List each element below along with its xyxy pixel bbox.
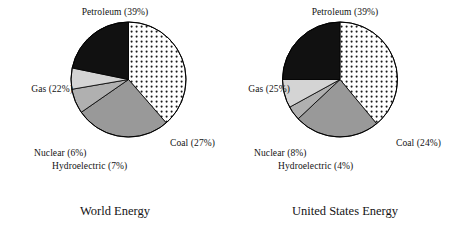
slice-label-nuclear: Nuclear (6%) [34,148,87,159]
slice-label-hydroelectric: Hydroelectric (4%) [278,161,353,172]
slice-label-coal: Coal (27%) [170,138,215,149]
chart-title-united-states-energy: United States Energy [230,204,460,219]
slice-label-petroleum: Petroleum (39%) [82,7,149,18]
chart-panel-united-states-energy: Petroleum (39%) Gas (25%) Coal (24%) Nuc… [230,0,460,244]
slice-label-gas: Gas (22%) [31,84,73,95]
slice-label-petroleum: Petroleum (39%) [312,7,379,18]
chart-title-world-energy: World Energy [0,204,230,219]
slice-label-hydroelectric: Hydroelectric (7%) [52,161,127,172]
slice-label-coal: Coal (24%) [396,138,441,149]
chart-panel-world-energy: Petroleum (39%) Gas (22%) Coal (27%) Nuc… [0,0,230,244]
pie-slice-gas [283,22,341,80]
energy-pie-figure: Petroleum (39%) Gas (22%) Coal (27%) Nuc… [0,0,460,244]
slice-label-gas: Gas (25%) [248,84,290,95]
slice-label-nuclear: Nuclear (8%) [254,148,307,159]
